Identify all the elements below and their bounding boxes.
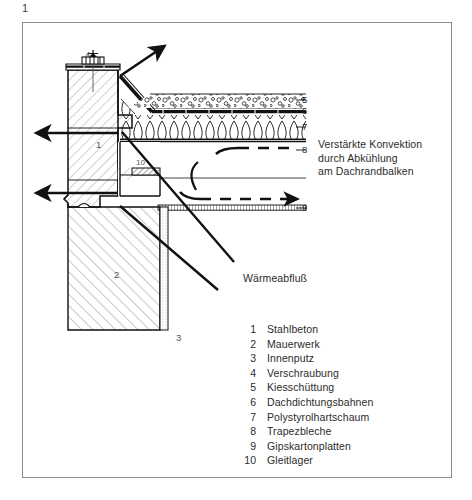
legend-number: 5 bbox=[236, 380, 256, 395]
legend-label: Gipskartonplatten bbox=[267, 439, 351, 454]
membrane-upstand bbox=[120, 74, 155, 114]
legend-item: 8 Trapezbleche bbox=[236, 424, 373, 439]
layer-gypsum-board bbox=[158, 205, 306, 210]
legend-item: 4 Verschraubung bbox=[236, 366, 373, 381]
legend-number: 9 bbox=[236, 439, 256, 454]
callout-6: 6 bbox=[302, 106, 307, 116]
legend-label: Stahlbeton bbox=[267, 322, 318, 337]
legend-item: 1 Stahlbeton bbox=[236, 322, 373, 337]
legend-number: 4 bbox=[236, 366, 256, 381]
legend-label: Gleitlager bbox=[267, 453, 313, 468]
heatflow-annotation: Wärmeabfluß bbox=[243, 272, 307, 284]
masonry-wall bbox=[64, 195, 168, 330]
legend-item: 10 Gleitlager bbox=[236, 453, 373, 468]
callout-8: 8 bbox=[302, 145, 307, 155]
legend-number: 7 bbox=[236, 410, 256, 425]
legend-number: 8 bbox=[236, 424, 256, 439]
legend-label: Mauerwerk bbox=[267, 337, 320, 352]
legend-label: Innenputz bbox=[267, 351, 314, 366]
figure-page: 1 bbox=[0, 0, 472, 500]
callout-3: 3 bbox=[176, 333, 181, 343]
legend-number: 1 bbox=[236, 322, 256, 337]
legend-number: 3 bbox=[236, 351, 256, 366]
legend-label: Dachdichtungsbahnen bbox=[267, 395, 373, 410]
legend-item: 3 Innenputz bbox=[236, 351, 373, 366]
callout-4: 4 bbox=[85, 50, 90, 60]
legend-label: Polystyrolhartschaum bbox=[267, 410, 369, 425]
legend-item: 9 Gipskartonplatten bbox=[236, 439, 373, 454]
legend-label: Verschraubung bbox=[267, 366, 339, 381]
legend-number: 6 bbox=[236, 395, 256, 410]
callout-1: 1 bbox=[96, 140, 101, 150]
legend-item: 7 Polystyrolhartschaum bbox=[236, 410, 373, 425]
inner-plaster-layer bbox=[160, 207, 168, 330]
legend-item: 2 Mauerwerk bbox=[236, 337, 373, 352]
legend-number: 2 bbox=[236, 337, 256, 352]
legend-label: Trapezbleche bbox=[267, 424, 331, 439]
legend-number: 10 bbox=[236, 453, 256, 468]
legend-item: 5 Kiesschüttung bbox=[236, 380, 373, 395]
convection-arrows bbox=[180, 148, 296, 199]
callout-7: 7 bbox=[302, 122, 307, 132]
callout-5: 5 bbox=[302, 95, 307, 105]
callout-10: 10 bbox=[136, 158, 145, 168]
legend-label: Kiesschüttung bbox=[267, 380, 334, 395]
callout-9: 9 bbox=[302, 203, 307, 213]
legend: 1 Stahlbeton 2 Mauerwerk 3 Innenputz 4 V… bbox=[236, 322, 373, 468]
callout-2: 2 bbox=[114, 270, 119, 280]
legend-item: 6 Dachdichtungsbahnen bbox=[236, 395, 373, 410]
convection-annotation: Verstärkte Konvektion durch Abkühlung am… bbox=[318, 138, 422, 179]
